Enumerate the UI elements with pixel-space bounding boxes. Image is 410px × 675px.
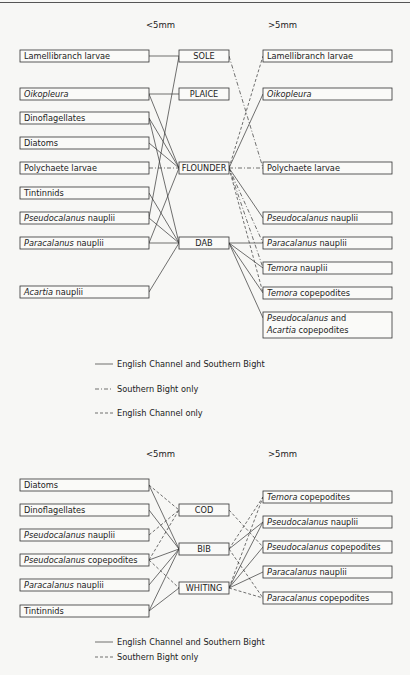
flatfish-diagram: <5mm>5mmLamellibranch larvaeOikopleuraDi… [20,20,392,418]
link-FLOUNDER-R3 [229,168,263,218]
fish-species-label: BIB [197,544,211,554]
fish-species-label: FLOUNDER [182,163,227,173]
prey-label: Tintinnids [23,188,64,198]
prey-large-box: Temora nauplii [263,262,392,274]
link-L1-BIB [149,510,179,549]
prey-label: Dinoflagellates [24,113,85,123]
link-L5-WHITING [149,588,179,611]
prey-label: Acartia nauplii [23,287,83,297]
prey-small-box: Pseudocalanus copepodites [20,554,149,566]
link-L2-COD [149,510,179,535]
prey-label: Oikopleura [267,89,312,99]
fish-box: BIB [179,543,229,555]
prey-large-box: Oikopleura [263,88,392,100]
link-L0-BIB [149,485,179,549]
prey-label: Oikopleura [24,89,69,99]
header-gt-5mm: >5mm [268,449,297,459]
link-WHITING-R2 [229,547,263,588]
prey-large-box: Pseudocalanus copepodites [263,541,392,553]
prey-label: Paracalanus nauplii [267,238,347,248]
header-gt-5mm: >5mm [268,20,297,30]
prey-label: Temora copepodites [267,288,350,298]
prey-label: Temora nauplii [267,263,327,273]
prey-label: Paracalanus nauplii [24,238,104,248]
prey-small-box: Pseudocalanus nauplii [20,529,149,541]
fish-species-label: PLAICE [190,89,219,99]
prey-small-box: Diatoms [20,137,149,149]
legend-label: Southern Bight only [117,652,198,662]
prey-large-box: Paracalanus copepodites [263,592,392,604]
prey-label: Paracalanus nauplii [267,567,347,577]
prey-small-box: Acartia nauplii [20,286,149,298]
fish-species-label: COD [195,505,213,515]
fish-box: DAB [179,237,229,249]
link-WHITING-R4 [229,588,263,598]
prey-label: Polychaete larvae [24,163,97,173]
link-L3-WHITING [149,560,179,588]
prey-large-box: Pseudocalanus andAcartia copepodites [263,312,392,338]
prey-small-box: Dinoflagellates [20,504,149,516]
link-L6-DAB [149,218,179,243]
prey-label: Diatoms [24,480,58,490]
prey-large-box: Polychaete larvae [263,162,392,174]
legend-label: English Channel and Southern Bight [117,359,266,369]
link-FLOUNDER-R5 [229,168,263,268]
prey-label: Pseudocalanus nauplii [267,517,358,527]
prey-small-box: Paracalanus nauplii [20,579,149,591]
prey-label: Temora copepodites [267,492,350,502]
prey-large-box: Temora copepodites [263,287,392,299]
legend-label: English Channel and Southern Bight [117,637,266,647]
link-L3-FLOUNDER [149,143,179,168]
prey-label: Diatoms [24,138,58,148]
link-L8-DAB [149,243,179,292]
prey-large-box: Paracalanus nauplii [263,566,392,578]
link-L1-FLOUNDER [149,94,179,168]
prey-label: Tintinnids [23,606,64,616]
prey-label: Pseudocalanus and [267,313,346,323]
fish-box: COD [179,504,229,516]
link-COD-R2 [229,510,263,547]
prey-label: Pseudocalanus nauplii [24,530,115,540]
fish-box: PLAICE [179,88,229,100]
link-WHITING-R3 [229,572,263,588]
prey-small-box: Paracalanus nauplii [20,237,149,249]
prey-label: Pseudocalanus nauplii [267,213,358,223]
prey-label: Paracalanus nauplii [24,580,104,590]
prey-small-box: Oikopleura [20,88,149,100]
link-BIB-R1 [229,522,263,549]
fish-species-label: WHITING [186,583,223,593]
header-lt-5mm: <5mm [146,449,175,459]
prey-large-box: Pseudocalanus nauplii [263,212,392,224]
prey-small-box: Tintinnids [20,605,149,617]
prey-label: Pseudocalanus copepodites [267,542,381,552]
prey-small-box: Pseudocalanus nauplii [20,212,149,224]
fish-box: SOLE [179,50,229,62]
gadoids-diagram: <5mm>5mmDiatomsDinoflagellatesPseudocala… [20,449,392,662]
fish-species-label: DAB [195,238,213,248]
prey-large-box: Pseudocalanus nauplii [263,516,392,528]
prey-label: Lamellibranch larvae [24,51,110,61]
legend-label: English Channel only [117,408,203,418]
food-web-diagram: <5mm>5mmLamellibranch larvaeOikopleuraDi… [0,0,410,675]
prey-label: Lamellibranch larvae [267,51,353,61]
fish-box: FLOUNDER [179,162,229,174]
fish-box: WHITING [179,582,229,594]
legend-label: Southern Bight only [117,384,198,394]
prey-small-box: Dinoflagellates [20,112,149,124]
legend: English Channel and Southern BightSouthe… [95,637,266,662]
link-L2-FLOUNDER [149,118,179,168]
link-DAB-R5 [229,243,263,268]
prey-small-box: Polychaete larvae [20,162,149,174]
link-L0-COD [149,485,179,510]
prey-small-box: Lamellibranch larvae [20,50,149,62]
link-DAB-R6 [229,243,263,293]
prey-large-box: Temora copepodites [263,491,392,503]
prey-label: Polychaete larvae [267,163,340,173]
link-FLOUNDER-R6 [229,168,263,293]
prey-large-box: Lamellibranch larvae [263,50,392,62]
prey-small-box: Diatoms [20,479,149,491]
header-lt-5mm: <5mm [146,20,175,30]
prey-label: Pseudocalanus nauplii [24,213,115,223]
prey-large-box: Paracalanus nauplii [263,237,392,249]
prey-label: Acartia copepodites [266,325,349,335]
